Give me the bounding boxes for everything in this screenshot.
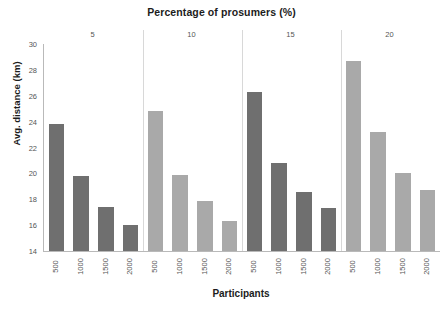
x-tick-10-2000: 2000 (224, 258, 233, 275)
x-tick-20-1500: 1500 (397, 258, 406, 275)
y-tick-28: 28 (29, 65, 37, 74)
x-tick-15-2000: 2000 (323, 258, 332, 275)
plot-area (43, 44, 440, 252)
y-tick-26: 26 (29, 91, 37, 100)
y-axis-title: Avg. distance (km) (11, 49, 22, 159)
x-tick-slot: 1000 (365, 253, 390, 283)
x-tick-5-1500: 1500 (100, 258, 109, 275)
x-tick-slot: 500 (43, 253, 68, 283)
chart-title: Percentage of prosumers (%) (0, 6, 443, 18)
x-tick-slot: 500 (142, 253, 167, 283)
bar-slot (292, 44, 317, 251)
y-tick-14: 14 (29, 247, 37, 256)
bar-slot (366, 44, 391, 251)
group-separator (242, 30, 243, 251)
bar-20-500 (346, 61, 361, 251)
x-tick-slot: 2000 (315, 253, 340, 283)
x-tick-slot: 1500 (93, 253, 118, 283)
bar-15-2000 (321, 208, 336, 251)
bar-10-2000 (222, 221, 237, 251)
bar-slot (341, 44, 366, 251)
group-separator (341, 30, 342, 251)
bar-slot (193, 44, 218, 251)
group-label-15: 15 (241, 30, 340, 42)
y-tick-16: 16 (29, 221, 37, 230)
x-tick-20-2000: 2000 (422, 258, 431, 275)
y-tick-24: 24 (29, 117, 37, 126)
bar-chart: Percentage of prosumers (%) 5101520 3028… (0, 0, 443, 310)
y-tick-20: 20 (29, 169, 37, 178)
x-tick-slot: 2000 (216, 253, 241, 283)
x-tick-5-500: 500 (51, 260, 60, 273)
x-tick-20-1000: 1000 (373, 258, 382, 275)
y-tick-18: 18 (29, 195, 37, 204)
x-tick-10-1000: 1000 (175, 258, 184, 275)
bar-slot (217, 44, 242, 251)
x-tick-15-500: 500 (249, 260, 258, 273)
x-axis-tick-labels: 5001000150020005001000150020005001000150… (43, 253, 439, 283)
bar-slot (391, 44, 416, 251)
group-label-band: 5101520 (43, 30, 439, 42)
x-tick-slot: 500 (340, 253, 365, 283)
bar-20-2000 (420, 190, 435, 251)
x-tick-slot: 1000 (68, 253, 93, 283)
bar-slot (415, 44, 440, 251)
bar-slot (44, 44, 69, 251)
group-separator (143, 30, 144, 251)
y-tick-30: 30 (29, 40, 37, 49)
x-tick-20-500: 500 (348, 260, 357, 273)
x-tick-15-1000: 1000 (274, 258, 283, 275)
bar-10-1000 (172, 175, 187, 251)
x-tick-10-1500: 1500 (199, 258, 208, 275)
y-tick-22: 22 (29, 143, 37, 152)
group-label-5: 5 (43, 30, 142, 42)
x-axis-title: Participants (43, 288, 439, 299)
group-label-10: 10 (142, 30, 241, 42)
bar-20-1500 (395, 173, 410, 251)
x-tick-slot: 1500 (291, 253, 316, 283)
bar-slot (242, 44, 267, 251)
bar-slot (267, 44, 292, 251)
bar-10-1500 (197, 201, 212, 251)
x-tick-5-2000: 2000 (125, 258, 134, 275)
bar-20-1000 (370, 132, 385, 251)
bar-slot (69, 44, 94, 251)
bar-slot (94, 44, 119, 251)
x-tick-slot: 1000 (266, 253, 291, 283)
x-tick-slot: 1000 (167, 253, 192, 283)
bar-5-1500 (98, 207, 113, 251)
bar-5-1000 (73, 176, 88, 251)
group-label-20: 20 (340, 30, 439, 42)
bar-slot (316, 44, 341, 251)
x-tick-10-500: 500 (150, 260, 159, 273)
x-tick-slot: 500 (241, 253, 266, 283)
x-tick-slot: 1500 (192, 253, 217, 283)
bar-slot (168, 44, 193, 251)
bar-15-1000 (271, 163, 286, 251)
x-tick-slot: 2000 (117, 253, 142, 283)
x-tick-15-1500: 1500 (298, 258, 307, 275)
x-tick-5-1000: 1000 (76, 258, 85, 275)
bar-5-2000 (123, 225, 138, 251)
bar-slot (143, 44, 168, 251)
x-tick-slot: 1500 (390, 253, 415, 283)
bar-15-1500 (296, 192, 311, 252)
bar-15-500 (247, 92, 262, 251)
bar-10-500 (148, 111, 163, 251)
bar-5-500 (49, 124, 64, 251)
x-tick-slot: 2000 (414, 253, 439, 283)
bar-slot (118, 44, 143, 251)
